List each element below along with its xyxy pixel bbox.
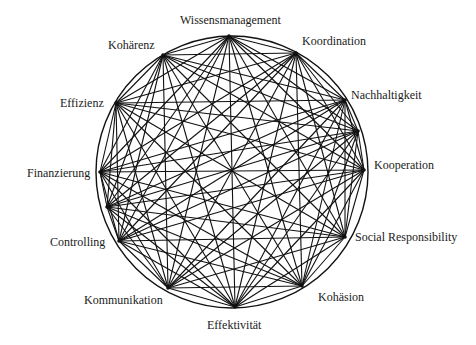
edge-kooperation-kommunikation [168, 170, 364, 288]
label-social-responsibility: Social Responsibility [355, 230, 457, 244]
edge-social-responsibility-controlling [119, 237, 345, 241]
label-wissensmanagement: Wissensmanagement [180, 13, 281, 27]
network-diagram: WissensmanagementKoordinationNachhaltigk… [0, 0, 476, 345]
label-kohaesion: Kohäsion [318, 290, 364, 304]
label-kooperation: Kooperation [374, 158, 434, 172]
node-nachhaltigkeit [343, 98, 347, 102]
edge-nachhaltigkeit-kohaesion [302, 100, 345, 286]
node-kooperation [362, 168, 366, 172]
node-effektivitaet [233, 305, 237, 309]
label-nachhaltigkeit: Nachhaltigkeit [351, 88, 422, 102]
edge-node-r2-finanzierung [100, 131, 358, 172]
node-finanzierung [98, 170, 102, 174]
edge-koordination-effektivitaet [235, 53, 296, 307]
node-effizienz [114, 101, 118, 105]
label-kohaerenz: Kohärenz [108, 38, 155, 52]
node-controlling [117, 239, 121, 243]
label-kommunikation: Kommunikation [84, 293, 163, 307]
node-node-r2 [356, 129, 360, 133]
label-finanzierung: Finanzierung [27, 166, 90, 180]
node-koordination [294, 51, 298, 55]
label-controlling: Controlling [50, 235, 105, 249]
edge-wissensmanagement-koordination [229, 36, 296, 53]
node-kohaesion [300, 284, 304, 288]
node-kohaerenz [161, 53, 165, 57]
node-node-l2 [105, 205, 109, 209]
node-social-responsibility [343, 235, 347, 239]
edge-kohaesion-controlling [119, 241, 302, 286]
edge-finanzierung-effizienz [100, 103, 116, 172]
node-kommunikation [166, 286, 170, 290]
edge-nachhaltigkeit-finanzierung [100, 100, 345, 172]
label-effizienz: Effizienz [60, 96, 104, 110]
edge-wissensmanagement-kohaerenz [163, 36, 229, 55]
node-wissensmanagement [227, 34, 231, 38]
edge-wissensmanagement-node-l2 [107, 36, 229, 207]
label-koordination: Koordination [302, 34, 366, 48]
label-effektivitaet: Effektivität [207, 318, 261, 332]
edge-social-responsibility-finanzierung [100, 172, 345, 237]
edge-social-responsibility-kohaesion [302, 237, 345, 286]
edge-social-responsibility-kommunikation [168, 237, 345, 288]
edge-nachhaltigkeit-effektivitaet [235, 100, 345, 307]
